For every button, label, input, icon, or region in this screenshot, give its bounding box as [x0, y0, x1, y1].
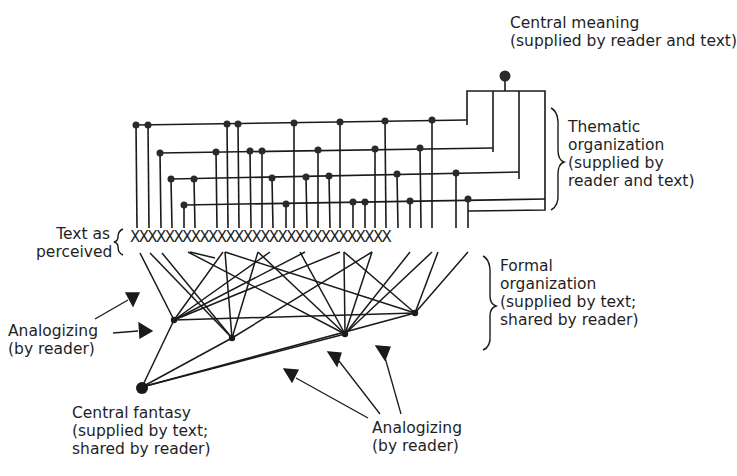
formal-line4: shared by reader) [500, 311, 639, 329]
analogizing-bottom-line2: (by reader) [372, 437, 462, 455]
analogizing-left-label: Analogizing (by reader) [8, 322, 98, 358]
central-fantasy-label: Central fantasy (supplied by text; share… [72, 404, 211, 458]
analogizing-bottom-label: Analogizing (by reader) [372, 419, 462, 455]
thematic-line1: Thematic [568, 118, 694, 136]
thematic-line3: (supplied by [568, 154, 694, 172]
central-meaning-subtitle: (supplied by reader and text) [510, 32, 737, 50]
analogizing-arrows [95, 293, 401, 418]
perceived-text-x-row: XXXXXXXXXXXXXXXXXXXXXXXXXXXXXX [130, 228, 390, 246]
formal-organization-label: Formal organization (supplied by text; s… [500, 257, 639, 329]
central-meaning-label: Central meaning (supplied by reader and … [510, 14, 737, 50]
text-perceived-line2: perceived [36, 243, 110, 261]
text-perceived-line1: Text as [36, 225, 110, 243]
analogizing-left-line1: Analogizing [8, 322, 98, 340]
central-fantasy-line1: Central fantasy [72, 404, 211, 422]
central-fantasy-line2: (supplied by text; [72, 422, 211, 440]
formal-line3: (supplied by text; [500, 293, 639, 311]
analogizing-left-line2: (by reader) [8, 340, 98, 358]
central-meaning-title: Central meaning [510, 14, 737, 32]
central-fantasy-line3: shared by reader) [72, 440, 211, 458]
thematic-line2: organization [568, 136, 694, 154]
thematic-organization-label: Thematic organization (supplied by reade… [568, 118, 694, 190]
thematic-nodes [133, 71, 511, 209]
thematic-line4: reader and text) [568, 172, 694, 190]
central-fantasy-node [136, 382, 148, 394]
formal-organization-network [140, 252, 468, 387]
text-as-perceived-label: Text as perceived [36, 225, 110, 261]
analogizing-bottom-line1: Analogizing [372, 419, 462, 437]
formal-line1: Formal [500, 257, 639, 275]
formal-line2: organization [500, 275, 639, 293]
thematic-organization-tree [136, 80, 545, 228]
